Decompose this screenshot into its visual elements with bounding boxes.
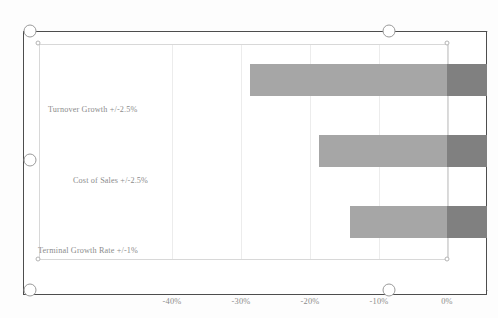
chart-object[interactable]: Turnover Growth +/-2.5% Cost of Sales +/… [23, 31, 487, 295]
gridline--20 [310, 45, 311, 259]
handle-top-center[interactable] [383, 25, 396, 38]
gridline--10 [379, 45, 380, 259]
category-label-turnover-growth: Turnover Growth +/-2.5% [48, 105, 137, 114]
handle-bottom-center[interactable] [383, 284, 396, 297]
plot-handle-bottom-right[interactable] [445, 257, 450, 262]
gridline--30 [241, 45, 242, 259]
screenshot-canvas: Turnover Growth +/-2.5% Cost of Sales +/… [0, 0, 498, 318]
plot-handle-top-right[interactable] [445, 41, 450, 46]
xtick-label--20: -20% [301, 297, 320, 306]
handle-bottom-left[interactable] [24, 284, 37, 297]
chart-plot-area[interactable] [39, 44, 448, 260]
gridline-zero [448, 45, 449, 259]
plot-handle-bottom-left[interactable] [36, 257, 41, 262]
xtick-label--40: -40% [163, 297, 182, 306]
handle-middle-left[interactable] [24, 154, 37, 167]
gridline--40 [172, 45, 173, 259]
xtick-label--10: -10% [370, 297, 389, 306]
xtick-label--30: -30% [232, 297, 251, 306]
category-label-cost-of-sales: Cost of Sales +/-2.5% [73, 176, 148, 185]
category-label-terminal-growth-rate: Terminal Growth Rate +/-1% [38, 246, 138, 255]
xtick-label-0: 0% [441, 297, 453, 306]
handle-top-left[interactable] [24, 25, 37, 38]
plot-handle-top-left[interactable] [36, 41, 41, 46]
